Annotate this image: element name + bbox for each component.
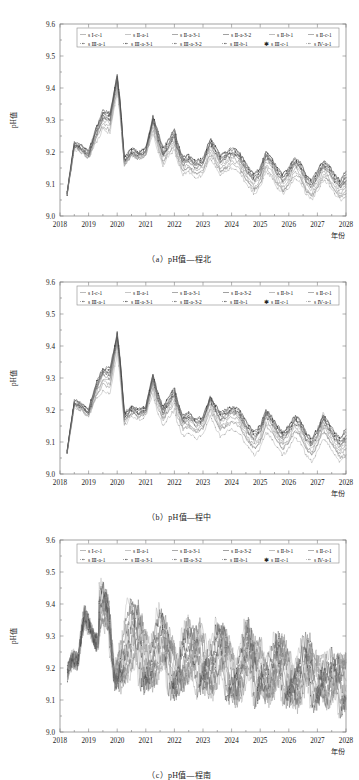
series-marker	[331, 668, 332, 669]
series-marker	[286, 450, 287, 451]
series-marker	[130, 607, 131, 608]
series-marker	[166, 421, 167, 422]
series-marker	[109, 647, 110, 648]
y-tick-label: 9.1	[46, 439, 55, 447]
series-marker	[149, 403, 150, 404]
series-marker	[257, 700, 258, 701]
series-marker	[158, 152, 159, 153]
legend-box	[77, 286, 339, 305]
y-tick-label: 9.5	[46, 569, 55, 577]
series-marker	[183, 156, 184, 157]
series-marker	[102, 112, 103, 113]
legend-label: s Ⅲ-c-1	[271, 41, 289, 47]
series-marker	[291, 428, 292, 429]
series-marker	[130, 633, 131, 634]
series-marker	[305, 440, 306, 441]
plot-data-layer	[67, 578, 346, 718]
series-marker	[321, 655, 322, 656]
series-marker	[310, 641, 311, 642]
series-marker	[108, 369, 109, 370]
x-tick-label: 2021	[139, 479, 154, 487]
series-marker	[229, 148, 230, 149]
series-marker	[171, 394, 172, 395]
series-marker	[96, 388, 97, 389]
series-marker	[240, 158, 241, 159]
legend-label: s Ⅲ-a-1	[88, 557, 106, 563]
series-marker	[188, 154, 189, 155]
series-marker	[173, 671, 174, 672]
series-marker	[277, 188, 278, 189]
series-marker	[175, 155, 176, 156]
series-marker	[215, 427, 216, 428]
series-marker	[141, 668, 142, 669]
plot-frame	[60, 24, 346, 216]
x-tick-label: 2028	[339, 221, 354, 229]
series-marker	[121, 131, 122, 132]
series-marker	[235, 410, 236, 411]
series-marker	[248, 447, 249, 448]
legend-sample-marker	[224, 301, 225, 302]
series-marker	[79, 405, 80, 406]
series-marker	[108, 393, 109, 394]
series-marker	[253, 439, 254, 440]
legend-label: s Ⅱ-a-3-2	[231, 32, 252, 38]
series-marker	[143, 418, 144, 419]
legend-label: s Ⅱ-b-1	[277, 548, 293, 554]
series-marker	[88, 628, 89, 629]
series-marker	[329, 425, 330, 426]
series-marker	[289, 696, 290, 697]
series-marker	[173, 696, 174, 697]
series-marker	[321, 684, 322, 685]
series-marker	[305, 175, 306, 176]
series-marker	[143, 150, 144, 151]
series-marker	[344, 182, 345, 183]
series-marker	[118, 92, 119, 93]
series-marker	[240, 173, 241, 174]
series-marker	[194, 177, 195, 178]
series-marker	[282, 432, 283, 433]
series-marker	[247, 646, 248, 647]
series-marker	[334, 433, 335, 434]
series-marker	[166, 157, 167, 158]
series-marker	[263, 439, 264, 440]
legend-label: s Ⅲ-a-3-1	[131, 41, 153, 47]
series-marker	[267, 433, 268, 434]
series-marker	[200, 165, 201, 166]
series-marker	[305, 433, 306, 434]
series-marker	[78, 655, 79, 656]
series-marker	[339, 180, 340, 181]
series-marker	[257, 703, 258, 704]
series-marker	[329, 446, 330, 447]
y-tick-label: 9.0	[46, 471, 55, 479]
series-marker	[282, 436, 283, 437]
series-marker	[301, 164, 302, 165]
series-marker	[342, 690, 343, 691]
legend-label: s Ⅲ-c-1	[271, 557, 289, 563]
series-marker	[73, 415, 74, 416]
legend-label: s Ⅰ-c-1	[88, 32, 103, 38]
series-marker	[194, 424, 195, 425]
series-marker	[102, 127, 103, 128]
series-marker	[183, 656, 184, 657]
series-marker	[267, 419, 268, 420]
series-marker	[329, 186, 330, 187]
series-marker	[162, 166, 163, 167]
series-marker	[109, 632, 110, 633]
series-marker	[320, 444, 321, 445]
series-marker	[315, 191, 316, 192]
series-marker	[334, 439, 335, 440]
series-marker	[272, 160, 273, 161]
series-marker	[96, 386, 97, 387]
series-marker	[194, 664, 195, 665]
series-marker	[84, 409, 85, 410]
series-marker	[125, 423, 126, 424]
x-tick-label: 2020	[110, 737, 125, 745]
y-tick-label: 9.1	[46, 181, 55, 189]
legend-label: s Ⅲ-a-3-1	[131, 557, 153, 563]
series-marker	[183, 635, 184, 636]
series-marker	[121, 392, 122, 393]
series-marker	[131, 150, 132, 151]
series-marker	[143, 154, 144, 155]
series-marker	[248, 428, 249, 429]
series-marker	[334, 178, 335, 179]
